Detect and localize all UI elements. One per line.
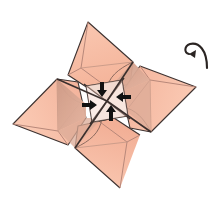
origami-diagram-figure bbox=[0, 0, 211, 209]
rotate-arrow-curve bbox=[185, 44, 207, 68]
rotate-arrow-head bbox=[189, 50, 196, 58]
origami-diagram-canvas bbox=[0, 0, 211, 209]
rotate-arrow-icon bbox=[185, 44, 207, 68]
